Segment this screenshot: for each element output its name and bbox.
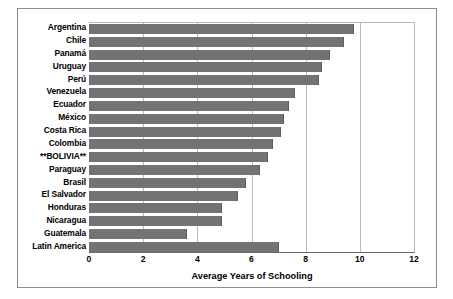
x-tick-label: 6 bbox=[249, 254, 254, 264]
bar bbox=[89, 50, 330, 60]
bar-row bbox=[89, 101, 414, 111]
x-tick-label: 10 bbox=[355, 254, 365, 264]
bar-row bbox=[89, 216, 414, 226]
bar bbox=[89, 88, 295, 98]
category-label: México bbox=[18, 112, 86, 122]
bar-row bbox=[89, 62, 414, 72]
bar-row bbox=[89, 139, 414, 149]
bar-row bbox=[89, 242, 414, 252]
bar bbox=[89, 75, 319, 85]
x-tick-label: 0 bbox=[87, 254, 92, 264]
bar-row bbox=[89, 152, 414, 162]
bar bbox=[89, 165, 260, 175]
bar-series bbox=[89, 23, 414, 252]
bar-row bbox=[89, 127, 414, 137]
bar bbox=[89, 152, 268, 162]
bar-row bbox=[89, 75, 414, 85]
bar-row bbox=[89, 203, 414, 213]
category-label: Colombia bbox=[18, 138, 86, 148]
bar bbox=[89, 229, 187, 239]
category-label: Argentina bbox=[18, 22, 86, 32]
bar bbox=[89, 191, 238, 201]
category-label: Brasil bbox=[18, 177, 86, 187]
bar-row bbox=[89, 37, 414, 47]
bar-row bbox=[89, 178, 414, 188]
bar bbox=[89, 216, 222, 226]
category-label: Guatemala bbox=[18, 228, 86, 238]
bar bbox=[89, 62, 322, 72]
x-axis-title: Average Years of Schooling bbox=[89, 271, 415, 281]
bar-row bbox=[89, 165, 414, 175]
bar bbox=[89, 139, 273, 149]
category-label: Panamá bbox=[18, 48, 86, 58]
category-label: Latin America bbox=[18, 241, 86, 251]
figure-frame: ArgentinaChilePanamáUruguayPerúVenezuela… bbox=[17, 8, 437, 288]
category-label: Uruguay bbox=[18, 61, 86, 71]
category-label: Costa Rica bbox=[18, 125, 86, 135]
value-axis: 024681012 bbox=[89, 254, 415, 268]
bar bbox=[89, 127, 281, 137]
bar bbox=[89, 114, 284, 124]
category-axis: ArgentinaChilePanamáUruguayPerúVenezuela… bbox=[18, 22, 86, 251]
bar bbox=[89, 203, 222, 213]
category-label: Nicaragua bbox=[18, 215, 86, 225]
bar bbox=[89, 37, 344, 47]
bar bbox=[89, 24, 354, 34]
category-label: Paraguay bbox=[18, 164, 86, 174]
x-tick-label: 4 bbox=[195, 254, 200, 264]
x-tick-label: 12 bbox=[409, 254, 419, 264]
bar bbox=[89, 101, 289, 111]
category-label: Chile bbox=[18, 35, 86, 45]
category-label: El Salvador bbox=[18, 189, 86, 199]
category-label: Venezuela bbox=[18, 86, 86, 96]
x-tick-label: 8 bbox=[303, 254, 308, 264]
x-tick-label: 2 bbox=[141, 254, 146, 264]
category-label: Perú bbox=[18, 74, 86, 84]
bar-row bbox=[89, 191, 414, 201]
bar bbox=[89, 242, 279, 252]
category-label: **BOLIVIA** bbox=[18, 151, 86, 161]
bar-row bbox=[89, 24, 414, 34]
plot-area bbox=[89, 22, 415, 253]
bar-row bbox=[89, 229, 414, 239]
bar bbox=[89, 178, 246, 188]
bar-chart: ArgentinaChilePanamáUruguayPerúVenezuela… bbox=[18, 9, 438, 289]
category-label: Honduras bbox=[18, 202, 86, 212]
bar-row bbox=[89, 114, 414, 124]
category-label: Ecuador bbox=[18, 99, 86, 109]
bar-row bbox=[89, 50, 414, 60]
bar-row bbox=[89, 88, 414, 98]
